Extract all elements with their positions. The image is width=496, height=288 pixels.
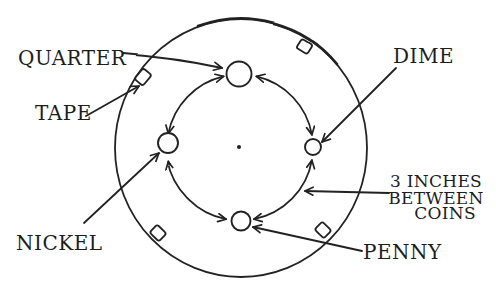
outer-circle-top-overstroke (198, 18, 337, 64)
penny-label: PENNY (363, 240, 442, 264)
tape-label: TAPE (35, 101, 92, 125)
arc-quarter-dime (256, 76, 312, 134)
nickel-label: NICKEL (16, 231, 103, 255)
arc-nickel-quarter (168, 76, 223, 133)
penny-leader-arrow (253, 227, 362, 251)
nickel-coin (158, 133, 178, 153)
center-dot (237, 145, 241, 149)
tape-leader-arrow (86, 86, 139, 116)
nickel-leader-arrow (84, 153, 159, 223)
quarter-leader-arrow (124, 54, 222, 68)
coin-circle-diagram: QUARTER TAPE DIME NICKEL PENNY 3 INCHES … (0, 0, 496, 288)
outer-circle (115, 19, 367, 277)
spacing-leader-arrow (305, 191, 389, 193)
arc-penny-nickel (168, 161, 226, 219)
penny-coin (232, 212, 251, 231)
dime-leader-arrow (322, 68, 396, 142)
spacing-annotation-line3: COINS (414, 203, 476, 223)
dime-label: DIME (393, 44, 454, 68)
quarter-coin (227, 62, 252, 87)
tape-marker-top-left (134, 68, 151, 86)
arc-dime-penny (254, 160, 312, 219)
dime-coin (305, 139, 321, 155)
diagram-canvas: QUARTER TAPE DIME NICKEL PENNY 3 INCHES … (0, 0, 496, 288)
quarter-label: QUARTER (18, 46, 127, 70)
tape-marker-bottom-right (315, 222, 332, 239)
